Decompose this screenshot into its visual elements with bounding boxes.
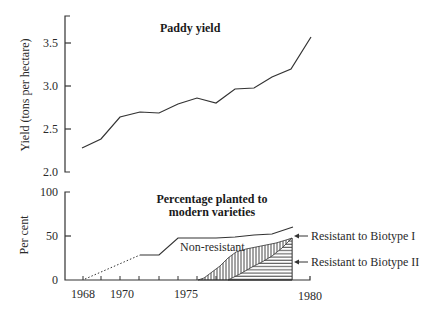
yield-chart: 3.5 3.0 2.5 2.0 Yield (tons per hectare)… — [18, 16, 311, 179]
yield-y-axis — [65, 16, 70, 172]
x-tick-1980: 1980 — [298, 289, 322, 303]
varieties-title-line2: modern varieties — [169, 205, 256, 219]
varieties-title-line1: Percentage planted to — [156, 192, 267, 206]
yield-tick-3-0: 3.0 — [43, 79, 58, 93]
yield-tick-3-5: 3.5 — [43, 36, 58, 50]
yield-line — [82, 37, 311, 148]
biotype2-arrow-icon — [294, 260, 308, 265]
x-tick-1970: 1970 — [110, 287, 134, 301]
percent-tick-50: 50 — [46, 229, 58, 243]
x-tick-1968: 1968 — [71, 287, 95, 301]
biotype1-label: Resistant to Biotype I — [311, 229, 415, 243]
yield-chart-title: Paddy yield — [160, 21, 221, 35]
biotype1-arrow-icon — [294, 234, 308, 239]
percent-tick-0: 0 — [52, 273, 58, 287]
x-tick-1975: 1975 — [174, 287, 198, 301]
percent-tick-100: 100 — [40, 185, 58, 199]
yield-axis-title: Yield (tons per hectare) — [18, 39, 32, 152]
varieties-chart: 100 50 0 1968 1970 1975 1980 Per cent Pe… — [17, 185, 419, 303]
total-dotted-segment — [85, 255, 140, 279]
yield-tick-2-5: 2.5 — [43, 122, 58, 136]
chart-figure: 3.5 3.0 2.5 2.0 Yield (tons per hectare)… — [0, 0, 422, 315]
yield-tick-2-0: 2.0 — [43, 165, 58, 179]
non-resistant-label: Non-resistant — [180, 240, 245, 254]
biotype2-label: Resistant to Biotype II — [311, 255, 419, 269]
percent-axis-title: Per cent — [17, 215, 31, 255]
